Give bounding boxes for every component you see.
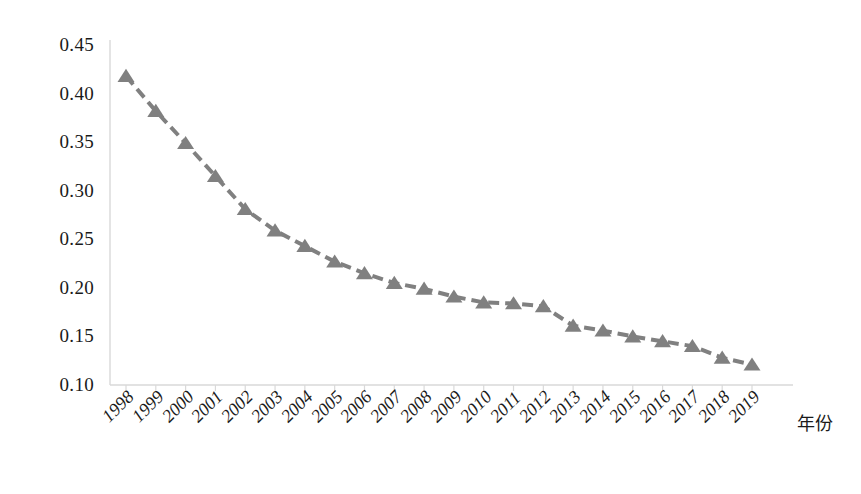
data-point-markers: [118, 69, 761, 371]
data-line-series: [126, 76, 752, 365]
y-axis-tick-label: 0.10: [22, 374, 94, 396]
x-axis-title: 年份: [797, 409, 833, 435]
y-axis-tick-label: 0.25: [22, 228, 94, 250]
series-polyline: [126, 76, 752, 365]
y-axis-tick-label: 0.45: [22, 34, 94, 56]
y-axis-tick-label: 0.40: [22, 83, 94, 105]
line-chart: 0.450.400.350.300.250.200.150.10 1998199…: [0, 0, 861, 494]
axes: [110, 40, 793, 385]
data-point-marker: [118, 69, 135, 82]
data-point-marker: [565, 319, 582, 332]
data-point-marker: [535, 299, 552, 312]
y-axis-tick-label: 0.30: [22, 180, 94, 202]
data-point-marker: [744, 357, 761, 370]
data-point-marker: [416, 282, 433, 295]
data-point-marker: [177, 136, 194, 149]
y-axis-tick-label: 0.15: [22, 325, 94, 347]
y-axis-tick-label: 0.20: [22, 277, 94, 299]
y-axis-tick-label: 0.35: [22, 131, 94, 153]
